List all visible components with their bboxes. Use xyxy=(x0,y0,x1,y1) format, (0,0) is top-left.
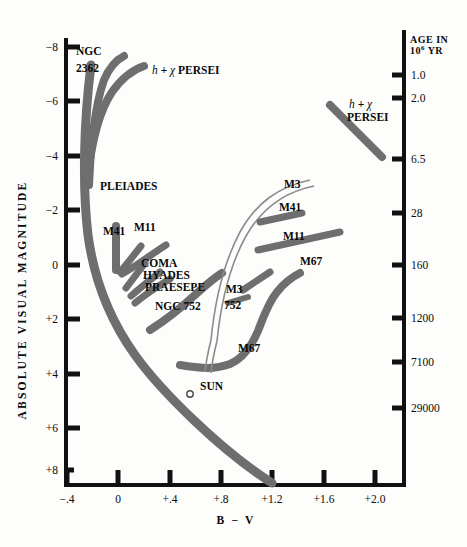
y-tick-label: −4 xyxy=(46,150,58,162)
x-axis-title: B − V xyxy=(216,514,255,526)
label-hchi-name: PERSEI xyxy=(175,64,220,76)
x-tick-label: +.4 xyxy=(162,493,177,505)
y-axis-title: ABSOLUTE VISUAL MAGNITUDE xyxy=(16,181,28,420)
label-ngc752: NGC 752 xyxy=(155,300,201,312)
y-tick-label: +8 xyxy=(46,464,58,476)
hr-diagram-svg: ABSOLUTE VISUAL MAGNITUDE B − V −8 −6 −4… xyxy=(0,0,467,547)
label-m11-giant: M11 xyxy=(283,230,305,242)
m41-giant-bar xyxy=(260,213,302,222)
label-m3: M3 xyxy=(284,178,301,190)
age-header-unit: YR xyxy=(425,45,443,56)
hchi-persei-branch xyxy=(88,66,144,175)
y-tick-label: −6 xyxy=(46,95,58,107)
figure-container: ABSOLUTE VISUAL MAGNITUDE B − V −8 −6 −4… xyxy=(0,0,467,547)
y-tick-label: +6 xyxy=(46,422,58,434)
label-ngc2362-line2: 2362 xyxy=(76,62,99,74)
m67-giant-bar xyxy=(243,272,270,290)
label-hchi-plus: + xyxy=(158,64,170,76)
age-header-base: 10 xyxy=(410,45,421,56)
sun-marker xyxy=(187,391,193,397)
label-ngc2362-line1: NGC xyxy=(76,45,102,57)
age-tick-label: 1.0 xyxy=(411,69,426,81)
age-tick-label: 29000 xyxy=(411,402,440,414)
age-header-line2: 106 YR xyxy=(410,44,443,56)
label-m11: M11 xyxy=(134,221,156,233)
label-hchi-r-plus: + xyxy=(355,98,367,110)
y-tick-label: −8 xyxy=(46,41,58,53)
label-sun: SUN xyxy=(200,380,224,392)
y-tick-label: 0 xyxy=(52,259,58,271)
x-tick-label: 0 xyxy=(115,493,121,505)
x-tick-label: +1.2 xyxy=(262,493,283,505)
label-praesepe: PRAESEPE xyxy=(145,281,205,293)
age-header-line1: AGE IN xyxy=(410,34,449,45)
bottom-axis-ticks xyxy=(67,470,375,485)
age-tick-labels: 1.0 2.0 6.5 28 160 1200 7100 29000 xyxy=(411,69,440,414)
age-tick-label: 160 xyxy=(411,259,429,271)
label-hyades: HYADES xyxy=(143,269,190,281)
left-axis-ticks xyxy=(66,47,80,470)
label-hchi-r-chi: χ xyxy=(366,98,373,111)
age-axis-header: AGE IN 106 YR xyxy=(410,34,449,56)
age-tick-label: 1200 xyxy=(411,312,434,324)
label-m41: M41 xyxy=(103,225,126,237)
label-752: 752 xyxy=(224,299,242,311)
y-tick-label: +2 xyxy=(46,313,58,325)
y-tick-label: +4 xyxy=(46,368,58,380)
x-tick-label: +.8 xyxy=(213,493,228,505)
label-m3-lower: M3 xyxy=(226,283,243,295)
x-tick-label: −.4 xyxy=(59,493,74,505)
x-tick-label: +1.6 xyxy=(314,493,335,505)
label-hchi-persei-main: h + χ PERSEI xyxy=(152,64,220,77)
y-tick-labels: −8 −6 −4 −2 0 +2 +4 +6 +8 xyxy=(46,41,59,476)
x-tick-label: +2.0 xyxy=(365,493,386,505)
x-tick-labels: −.4 0 +.4 +.8 +1.2 +1.6 +2.0 xyxy=(59,493,385,505)
label-hchi-persei-right-line2: PERSEI xyxy=(347,111,389,123)
y-tick-label: −2 xyxy=(46,204,58,216)
age-tick-label: 7100 xyxy=(411,356,434,368)
age-tick-label: 6.5 xyxy=(411,153,426,165)
label-m67: M67 xyxy=(238,342,261,354)
label-coma: COMA xyxy=(141,257,178,269)
label-m41-giant: M41 xyxy=(279,201,302,213)
label-hchi-persei-right-line1: h + χ xyxy=(349,98,373,111)
age-tick-label: 2.0 xyxy=(411,92,426,104)
label-pleiades: PLEIADES xyxy=(100,180,158,192)
age-tick-label: 28 xyxy=(411,207,423,219)
label-m67-giant: M67 xyxy=(300,255,323,267)
